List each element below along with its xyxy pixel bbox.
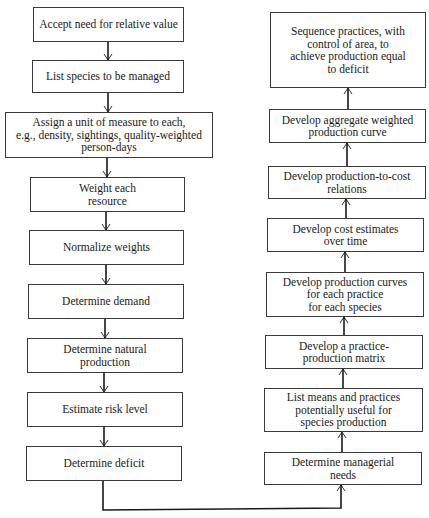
step-label: List means and practices potentially use… [287, 391, 400, 429]
step-label: Develop a practice- production matrix [299, 340, 389, 365]
step-aggregate-curve: Develop aggregate weighted production cu… [269, 109, 426, 143]
step-cost-estimates: Develop cost estimates over time [267, 218, 424, 252]
step-label: Estimate risk level [62, 403, 148, 416]
step-label: Develop production-to-cost relations [284, 170, 411, 195]
step-determine-demand: Determine demand [28, 284, 184, 319]
step-label: Assign a unit of measure to each, e.g., … [16, 116, 202, 154]
step-sequence-practices: Sequence practices, with control of area… [270, 12, 426, 88]
step-label: Develop production curves for each pract… [283, 276, 408, 314]
step-managerial-needs: Determine managerial needs [264, 452, 422, 485]
step-label: Determine demand [62, 295, 150, 308]
step-label: Weight each resource [79, 182, 136, 207]
step-label: Determine managerial needs [292, 456, 395, 481]
step-label: Determine deficit [64, 457, 145, 470]
step-production-to-cost: Develop production-to-cost relations [268, 166, 426, 199]
step-label: Develop aggregate weighted production cu… [282, 114, 414, 139]
step-label: List species to be managed [46, 70, 170, 83]
step-natural-production: Determine natural production [27, 338, 183, 373]
step-label: Determine natural production [63, 343, 146, 368]
step-label: Develop cost estimates over time [292, 223, 398, 248]
step-weight-resource: Weight each resource [30, 177, 185, 212]
step-label: Normalize weights [63, 241, 150, 254]
step-label: Sequence practices, with control of area… [290, 25, 406, 75]
step-list-species: List species to be managed [32, 60, 184, 93]
step-risk-level: Estimate risk level [27, 392, 183, 427]
step-production-curves: Develop production curves for each pract… [266, 272, 424, 317]
step-practice-matrix: Develop a practice- production matrix [265, 335, 423, 369]
step-normalize-weights: Normalize weights [29, 230, 184, 265]
step-label: Accept need for relative value [39, 18, 178, 31]
step-determine-deficit: Determine deficit [26, 446, 182, 481]
step-list-means: List means and practices potentially use… [264, 388, 423, 432]
step-accept-need: Accept need for relative value [33, 7, 184, 42]
step-assign-unit: Assign a unit of measure to each, e.g., … [5, 112, 213, 158]
